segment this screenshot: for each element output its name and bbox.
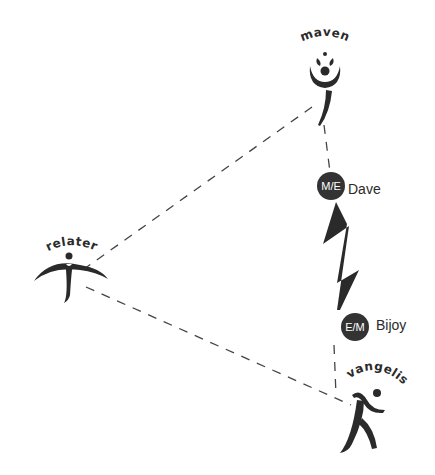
relater-label: relater xyxy=(43,234,99,254)
edge-bijoy-evangelist xyxy=(334,345,336,395)
relater-figure-icon xyxy=(34,253,108,304)
maven-label: maven xyxy=(298,25,352,44)
edge-maven-relater xyxy=(84,107,312,269)
bijoy-badge-text: E/M xyxy=(345,321,365,333)
node-evangelist: evangelist xyxy=(0,0,411,453)
lightning-bolt-icon xyxy=(323,202,359,310)
dave-badge-text: M/E xyxy=(321,180,341,192)
edge-maven-dave xyxy=(324,125,330,172)
dave-name: Dave xyxy=(348,181,381,197)
edge-relater-evangelist xyxy=(86,287,351,405)
person-bijoy: E/M Bijoy xyxy=(341,313,406,341)
person-dave: M/E Dave xyxy=(317,172,381,200)
maven-figure-icon xyxy=(310,52,340,126)
connection-lines xyxy=(84,107,351,405)
node-relater: relater xyxy=(34,234,108,303)
relationship-diagram: maven relater M/E Dave E/M xyxy=(0,0,435,475)
bijoy-name: Bijoy xyxy=(376,317,406,333)
evangelist-runner-icon xyxy=(340,389,385,453)
